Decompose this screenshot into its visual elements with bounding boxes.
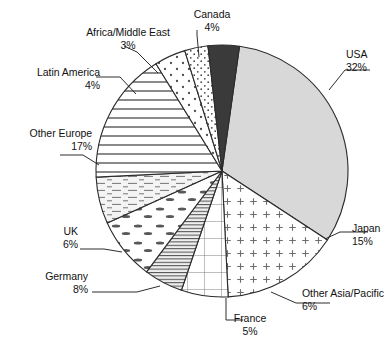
pie-label-percent: 5% bbox=[190, 325, 310, 338]
pie-label-name: Other Asia/Pacific bbox=[302, 287, 384, 300]
pie-label-name: Latin America bbox=[37, 66, 100, 79]
pie-label-percent: 8% bbox=[45, 283, 88, 296]
pie-label-other-europe: Other Europe17% bbox=[30, 127, 92, 152]
pie-label-germany: Germany8% bbox=[45, 270, 88, 295]
pie-slices-group bbox=[96, 45, 348, 297]
pie-label-uk: UK6% bbox=[63, 225, 78, 250]
pie-label-other-asia-pacific: Other Asia/Pacific6% bbox=[302, 287, 384, 312]
pie-label-name: UK bbox=[63, 225, 78, 238]
pie-label-percent: 17% bbox=[30, 140, 92, 153]
leader-line-other-europe bbox=[60, 155, 99, 165]
pie-label-france: France5% bbox=[190, 312, 310, 337]
pie-chart-figure: USA32%Japan15%Other Asia/Pacific6%France… bbox=[0, 0, 391, 347]
pie-label-percent: 15% bbox=[352, 235, 380, 248]
leader-line-uk bbox=[80, 249, 122, 252]
pie-label-latin-america: Latin America4% bbox=[37, 66, 100, 91]
pie-label-percent: 3% bbox=[68, 39, 188, 52]
pie-label-percent: 6% bbox=[302, 300, 384, 313]
pie-label-name: Japan bbox=[352, 222, 380, 235]
pie-label-name: Germany bbox=[45, 270, 88, 283]
pie-label-percent: 4% bbox=[37, 79, 100, 92]
pie-label-name: Other Europe bbox=[30, 127, 92, 140]
pie-label-percent: 6% bbox=[63, 238, 78, 251]
pie-label-usa: USA32% bbox=[346, 48, 367, 73]
leader-line-germany bbox=[92, 286, 160, 292]
pie-label-canada: Canada4% bbox=[152, 8, 272, 33]
pie-label-name: USA bbox=[346, 48, 367, 61]
leader-line-usa bbox=[329, 70, 370, 90]
pie-label-name: France bbox=[190, 312, 310, 325]
pie-label-name: Canada bbox=[152, 8, 272, 21]
pie-label-percent: 4% bbox=[152, 21, 272, 34]
pie-label-percent: 32% bbox=[346, 61, 367, 74]
pie-label-japan: Japan15% bbox=[352, 222, 380, 247]
